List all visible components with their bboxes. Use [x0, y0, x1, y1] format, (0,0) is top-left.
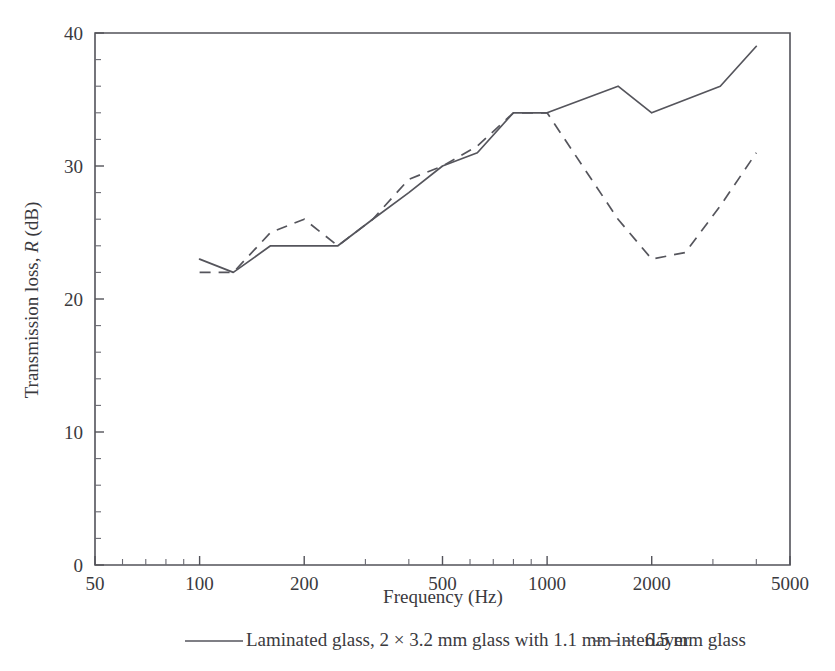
- x-tick-label: 50: [86, 573, 105, 594]
- transmission-loss-chart: 010203040 50100200500100020005000 Freque…: [0, 0, 835, 671]
- axis-frame: [95, 33, 790, 565]
- x-tick-label: 1000: [528, 573, 566, 594]
- y-tick-label: 30: [64, 156, 83, 177]
- chart-legend: Laminated glass, 2 × 3.2 mm glass with 1…: [185, 629, 746, 650]
- x-tick-label: 200: [290, 573, 319, 594]
- y-axis-title-pre: Transmission loss,: [21, 253, 42, 399]
- x-axis-major-ticks: [95, 556, 790, 565]
- y-tick-label: 20: [64, 289, 83, 310]
- x-axis-minor-ticks: [123, 559, 757, 565]
- x-tick-label: 100: [185, 573, 214, 594]
- y-tick-label: 40: [64, 23, 83, 44]
- y-axis-title: Transmission loss, R (dB): [21, 202, 43, 399]
- y-axis-title-post: (dB): [21, 202, 43, 242]
- x-tick-label: 2000: [633, 573, 671, 594]
- figure-container: 010203040 50100200500100020005000 Freque…: [0, 0, 835, 671]
- legend-label-laminated-glass: Laminated glass, 2 × 3.2 mm glass with 1…: [246, 629, 690, 650]
- y-axis-tick-labels: 010203040: [64, 23, 83, 576]
- y-tick-label: 0: [74, 555, 84, 576]
- series-6-5mm-glass: [200, 113, 757, 273]
- y-tick-label: 10: [64, 422, 83, 443]
- x-tick-label: 5000: [771, 573, 809, 594]
- legend-label-6-5mm-glass: 6.5 mm glass: [645, 629, 746, 650]
- y-axis-title-variable: R: [21, 241, 42, 254]
- series-laminated-glass: [200, 46, 757, 272]
- x-axis-title: Frequency (Hz): [383, 586, 503, 608]
